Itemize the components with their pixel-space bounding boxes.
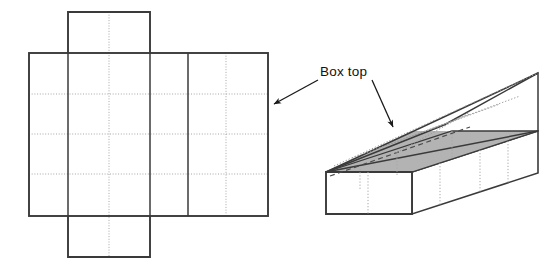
assembled-box-3d xyxy=(326,73,538,214)
leader-to-net xyxy=(274,80,318,104)
box-top-label: Box top xyxy=(320,64,367,79)
leader-to-box xyxy=(372,80,393,127)
box-net-and-box-diagram: Box top xyxy=(0,0,560,266)
callout-leaders xyxy=(274,80,393,127)
figure-container: Box top xyxy=(0,0,560,266)
box-front-face xyxy=(326,172,412,214)
unfolded-box-net xyxy=(29,12,268,257)
